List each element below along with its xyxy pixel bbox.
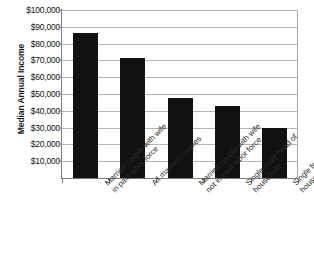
bar-chart: Median Annual Income $10,000$20,000$30,0… — [0, 0, 314, 274]
y-axis-tick-mark — [58, 10, 62, 11]
y-axis-tick-label: $90,000 — [14, 22, 60, 32]
y-axis-tick-label: $100,000 — [14, 5, 60, 15]
category-label-line: in paid labor force — [109, 188, 116, 195]
y-axis-tick-mark — [58, 26, 62, 27]
category-label-line: household — [251, 188, 258, 195]
y-axis-tick-label: $40,000 — [14, 106, 60, 116]
category-label-line: not in paid labor force — [204, 188, 211, 195]
y-axis-tick-label: $30,000 — [14, 123, 60, 133]
x-axis-category-labels: Married couple with wifein paid labor fo… — [0, 181, 314, 274]
y-axis-tick-mark — [58, 127, 62, 128]
y-axis-tick-mark — [58, 43, 62, 44]
y-axis-tick-mark — [58, 110, 62, 111]
x-axis-category-label: All married couples — [150, 181, 157, 188]
y-axis-tick-label: $60,000 — [14, 72, 60, 82]
y-axis-tick-mark — [58, 77, 62, 78]
y-axis-tick-label: $50,000 — [14, 89, 60, 99]
bar — [73, 33, 98, 178]
y-axis-tick-mark — [58, 144, 62, 145]
y-axis-tick-label: $20,000 — [14, 139, 60, 149]
y-axis-tick-labels: $10,000$20,000$30,000$40,000$50,000$60,0… — [14, 4, 60, 180]
y-axis-tick-label: $70,000 — [14, 55, 60, 65]
y-axis-tick-mark — [58, 94, 62, 95]
y-axis-tick-label: $10,000 — [14, 156, 60, 166]
x-axis-category-label: Single male head ofhousehold — [244, 181, 257, 194]
y-axis-tick-mark — [58, 161, 62, 162]
x-axis-category-label: Married couple with wifein paid labor fo… — [103, 181, 116, 194]
y-axis-tick-label: $80,000 — [14, 39, 60, 49]
x-axis-category-label: Married couple with wifenot in paid labo… — [197, 181, 210, 194]
x-axis-category-label: Single female head ofhousehold — [291, 181, 304, 194]
y-axis-tick-mark — [58, 60, 62, 61]
category-label-line: household — [298, 188, 305, 195]
